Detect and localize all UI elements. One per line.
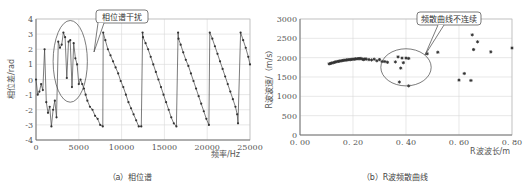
data-marker xyxy=(234,106,236,108)
data-marker xyxy=(463,72,466,75)
y-tick-label: 4 xyxy=(28,15,33,24)
data-marker xyxy=(407,57,410,60)
data-marker xyxy=(67,41,69,43)
data-marker xyxy=(229,91,231,93)
data-marker xyxy=(71,86,73,88)
data-marker xyxy=(141,32,143,34)
data-marker xyxy=(35,78,37,80)
data-marker xyxy=(177,32,179,34)
data-marker xyxy=(135,119,137,121)
data-marker xyxy=(55,116,57,118)
data-marker xyxy=(170,116,172,118)
figure-caption: （a）相位谱 xyxy=(108,172,153,182)
data-marker xyxy=(457,78,460,81)
data-marker xyxy=(160,86,162,88)
y-tick-label: 1000 xyxy=(277,92,297,101)
y-tick-label: -2 xyxy=(25,106,33,115)
data-marker xyxy=(394,60,397,63)
data-marker xyxy=(249,63,251,65)
data-marker xyxy=(130,107,132,109)
data-marker xyxy=(47,112,49,114)
data-marker xyxy=(173,122,175,124)
data-marker xyxy=(510,46,513,49)
data-marker xyxy=(144,42,146,44)
data-marker xyxy=(242,39,244,41)
data-marker xyxy=(236,113,238,115)
data-marker xyxy=(78,83,80,85)
data-marker xyxy=(219,60,221,62)
data-marker xyxy=(222,68,224,70)
data-marker xyxy=(175,125,177,127)
data-marker xyxy=(99,124,101,126)
data-marker xyxy=(472,48,475,51)
data-marker xyxy=(152,63,154,65)
data-marker xyxy=(104,39,106,41)
x-tick-label: 0. 00 xyxy=(290,138,310,147)
callout-pointer xyxy=(94,23,104,52)
y-tick-label: 500 xyxy=(282,112,297,121)
data-marker xyxy=(168,109,170,111)
chart-a xyxy=(35,10,251,140)
data-marker xyxy=(214,45,216,47)
y-tick-label: 1500 xyxy=(277,73,297,82)
data-marker xyxy=(198,95,200,97)
figure: -4-3-2-1012340500010000150002000025000相位… xyxy=(0,0,530,191)
data-marker xyxy=(232,98,234,100)
data-marker xyxy=(180,44,182,46)
data-marker xyxy=(109,54,111,56)
data-marker xyxy=(50,125,52,127)
data-marker xyxy=(52,109,54,111)
data-marker xyxy=(247,56,249,58)
data-marker xyxy=(155,71,157,73)
y-tick-label: 3 xyxy=(28,30,33,39)
data-marker xyxy=(211,38,213,40)
callout-pointer xyxy=(425,25,444,55)
data-marker xyxy=(79,78,81,80)
y-tick-label: 2 xyxy=(28,45,33,54)
data-marker xyxy=(239,32,241,34)
y-tick-label: 0 xyxy=(28,76,33,85)
data-marker xyxy=(38,91,40,93)
callout-text: 相位谱干扰 xyxy=(102,12,142,22)
data-marker xyxy=(150,56,152,58)
data-marker xyxy=(132,113,134,115)
data-marker xyxy=(165,101,167,103)
data-marker xyxy=(97,118,99,120)
data-marker xyxy=(42,89,44,91)
data-marker xyxy=(112,60,114,62)
data-marker xyxy=(140,125,142,127)
x-tick-label: 15000 xyxy=(152,143,177,152)
data-marker xyxy=(62,32,64,34)
y-tick-label: -4 xyxy=(25,136,33,145)
data-marker xyxy=(162,94,164,96)
data-marker xyxy=(203,110,205,112)
data-marker xyxy=(208,124,210,126)
data-marker xyxy=(200,103,202,105)
y-tick-label: 2000 xyxy=(277,54,297,63)
data-marker xyxy=(216,53,218,55)
y-axis-label: 相位差/rad xyxy=(6,59,16,99)
data-marker xyxy=(471,33,474,36)
x-tick-label: 0. 80 xyxy=(502,138,522,147)
data-marker xyxy=(436,51,439,54)
data-marker xyxy=(396,55,399,58)
data-marker xyxy=(86,100,88,102)
data-marker xyxy=(245,47,247,49)
data-marker xyxy=(182,51,184,53)
x-tick-label: 0. 40 xyxy=(396,138,416,147)
data-marker xyxy=(115,66,117,68)
chart-b xyxy=(300,12,514,135)
data-marker xyxy=(192,80,194,82)
data-marker xyxy=(138,125,140,127)
y-tick-label: -1 xyxy=(25,91,33,100)
data-marker xyxy=(400,56,403,59)
data-marker xyxy=(190,72,192,74)
data-marker xyxy=(402,61,405,64)
data-marker xyxy=(102,32,104,34)
data-marker xyxy=(102,125,104,127)
data-marker xyxy=(94,115,96,117)
annotation-ellipse xyxy=(53,21,87,103)
data-marker xyxy=(127,101,129,103)
x-tick-label: 0. 60 xyxy=(449,138,469,147)
y-axis-label: R波波速/（m/s） xyxy=(264,46,274,109)
